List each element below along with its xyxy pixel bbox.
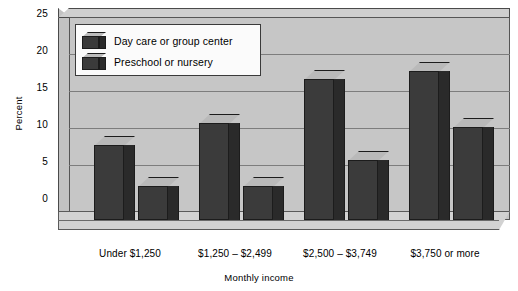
legend-swatch-icon — [82, 32, 106, 49]
bar-side-face — [124, 145, 135, 220]
bar-front-face — [304, 79, 334, 220]
bar-side-face — [439, 71, 450, 220]
bar-preschool-2500-3749 — [348, 151, 378, 220]
legend-swatch-icon — [82, 53, 106, 70]
bar-side-face — [229, 123, 240, 220]
x-tick-label-3750-or-more: $3,750 or more — [385, 248, 505, 259]
bar-daycare-1250-2499 — [199, 114, 229, 220]
y-tick-label-0: 0 — [14, 193, 48, 204]
bar-side-face — [273, 186, 284, 220]
bar-preschool-1250-2499 — [243, 177, 273, 220]
bar-front-face — [348, 160, 378, 220]
bar-side-face — [483, 127, 494, 220]
bar-preschool-3750-or-more — [453, 118, 483, 220]
bar-daycare-3750-or-more — [409, 62, 439, 220]
y-tick-label-5: 5 — [14, 156, 48, 167]
bar-daycare-2500-3749 — [304, 70, 334, 220]
y-tick-label-20: 20 — [14, 45, 48, 56]
bar-side-face — [168, 186, 179, 220]
bar-preschool-under-1250 — [138, 177, 168, 220]
bar-front-face — [409, 71, 439, 220]
y-tick-label-25: 25 — [14, 8, 48, 19]
legend-item-preschool: Preschool or nursery — [82, 51, 254, 72]
chart-legend: Day care or group center Preschool or nu… — [75, 24, 261, 76]
plot-baseline — [58, 220, 499, 221]
bar-front-face — [199, 123, 229, 220]
legend-item-daycare: Day care or group center — [82, 30, 254, 51]
bar-side-face — [378, 160, 389, 220]
bar-front-face — [94, 145, 124, 220]
x-tick-label-under-1250: Under $1,250 — [70, 248, 190, 259]
legend-label-preschool: Preschool or nursery — [114, 56, 213, 68]
y-tick-label-10: 10 — [14, 119, 48, 130]
x-axis-title: Monthly income — [0, 272, 518, 283]
bar-chart: Percent 25 20 15 10 5 0 — [0, 0, 518, 291]
x-tick-label-2500-3749: $2,500 – $3,749 — [280, 248, 400, 259]
bar-daycare-under-1250 — [94, 136, 124, 220]
legend-label-daycare: Day care or group center — [114, 35, 233, 47]
y-tick-label-15: 15 — [14, 82, 48, 93]
bar-front-face — [453, 127, 483, 220]
bar-front-face — [138, 186, 168, 220]
bar-side-face — [334, 79, 345, 220]
x-tick-label-1250-2499: $1,250 – $2,499 — [175, 248, 295, 259]
bar-front-face — [243, 186, 273, 220]
